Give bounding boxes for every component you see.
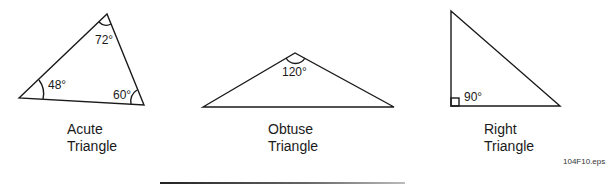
- angle-label-48: 48°: [48, 79, 66, 92]
- right-angle-marker: [451, 98, 459, 106]
- caption-line: Acute: [67, 121, 117, 138]
- angle-arc-72: [99, 22, 111, 25]
- caption-line: Obtuse: [268, 121, 318, 138]
- angle-arc-48: [39, 80, 44, 99]
- angle-label-60: 60°: [113, 89, 131, 102]
- caption-line: Triangle: [67, 138, 117, 155]
- caption-acute-triangle: Acute Triangle: [67, 121, 117, 155]
- file-label: 104F10.eps: [563, 157, 605, 166]
- angle-label-120: 120°: [282, 66, 307, 79]
- caption-line: Right: [484, 121, 534, 138]
- angle-arc-60: [131, 90, 137, 104]
- caption-line: Triangle: [484, 138, 534, 155]
- angle-arc-120: [286, 58, 305, 63]
- angle-label-90: 90°: [464, 91, 482, 104]
- caption-obtuse-triangle: Obtuse Triangle: [268, 121, 318, 155]
- caption-line: Triangle: [268, 138, 318, 155]
- bottom-divider: [160, 182, 405, 184]
- angle-label-72: 72°: [95, 34, 113, 47]
- triangle-types-diagram: [0, 0, 613, 184]
- obtuse-triangle: [203, 53, 394, 107]
- caption-right-triangle: Right Triangle: [484, 121, 534, 155]
